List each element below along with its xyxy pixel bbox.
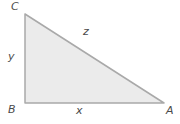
vertex-label-c: C — [11, 1, 19, 13]
side-label-y: y — [8, 51, 15, 63]
vertex-label-b: B — [8, 104, 16, 116]
side-label-z: z — [83, 26, 89, 38]
side-label-x: x — [76, 105, 83, 117]
vertex-label-a: A — [166, 105, 174, 117]
right-triangle-figure: C B A y x z — [0, 0, 180, 124]
triangle-canvas — [0, 0, 180, 124]
